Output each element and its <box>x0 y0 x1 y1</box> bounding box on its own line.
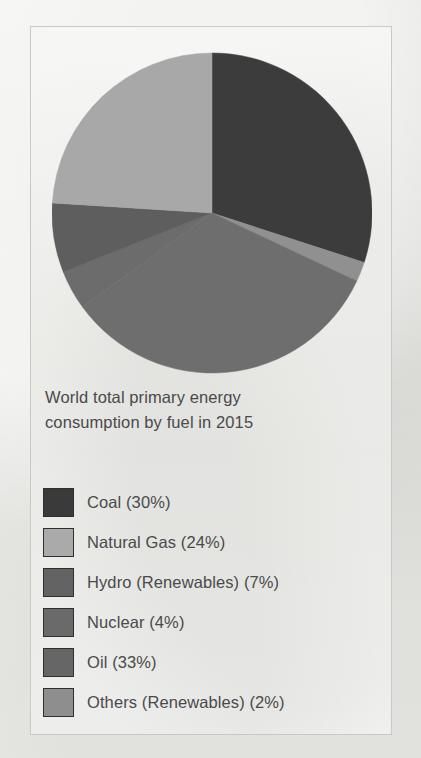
pie-slice-group <box>52 53 372 373</box>
legend-swatch-oil <box>43 648 74 677</box>
legend-swatch-nuclear <box>43 608 74 637</box>
legend-label-others: Others (Renewables) (2%) <box>87 693 285 712</box>
legend-label-nuclear: Nuclear (4%) <box>87 613 184 632</box>
legend-item-nuclear: Nuclear (4%) <box>43 602 383 642</box>
legend-swatch-others <box>43 688 74 717</box>
legend-label-hydro: Hydro (Renewables) (7%) <box>87 573 279 592</box>
caption-line-1: World total primary energy <box>45 385 375 410</box>
legend-item-natural-gas: Natural Gas (24%) <box>43 522 383 562</box>
caption-line-2: consumption by fuel in 2015 <box>45 410 375 435</box>
legend-swatch-natural-gas <box>43 528 74 557</box>
legend-label-oil: Oil (33%) <box>87 653 157 672</box>
chart-legend: Coal (30%) Natural Gas (24%) Hydro (Rene… <box>43 482 383 722</box>
legend-item-hydro: Hydro (Renewables) (7%) <box>43 562 383 602</box>
pie-chart <box>52 35 372 375</box>
legend-item-coal: Coal (30%) <box>43 482 383 522</box>
pie-chart-area <box>31 27 391 379</box>
legend-item-others: Others (Renewables) (2%) <box>43 682 383 722</box>
legend-swatch-coal <box>43 488 74 517</box>
legend-item-oil: Oil (33%) <box>43 642 383 682</box>
pie-slice-natural-gas <box>52 53 212 213</box>
legend-label-natural-gas: Natural Gas (24%) <box>87 533 225 552</box>
chart-caption: World total primary energy consumption b… <box>45 385 375 435</box>
legend-label-coal: Coal (30%) <box>87 493 171 512</box>
legend-swatch-hydro <box>43 568 74 597</box>
figure-frame: World total primary energy consumption b… <box>30 26 392 735</box>
